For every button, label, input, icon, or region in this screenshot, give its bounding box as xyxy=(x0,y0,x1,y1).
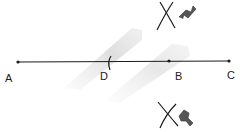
arrow-icon xyxy=(179,110,193,126)
label-a: A xyxy=(5,72,13,84)
point-c xyxy=(227,59,230,62)
label-d: D xyxy=(100,70,108,82)
label-c: C xyxy=(227,69,235,81)
arrow-icon xyxy=(179,6,196,19)
intersection-mark-below xyxy=(158,102,178,128)
point-a xyxy=(16,60,19,63)
label-b: B xyxy=(175,70,182,82)
intersection-mark-above xyxy=(157,2,175,30)
segment-ac xyxy=(18,61,229,62)
geometry-diagram: A D B C xyxy=(0,0,240,132)
point-b xyxy=(167,59,170,62)
